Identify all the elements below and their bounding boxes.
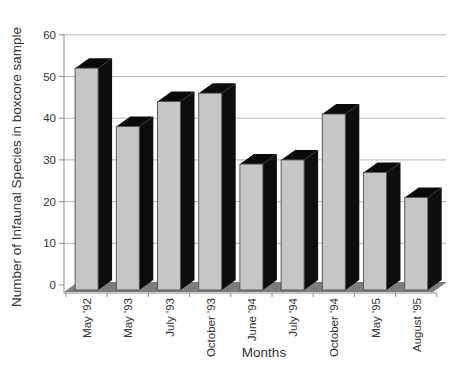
x-tick-label-august-95: August '95 xyxy=(411,298,423,352)
bar-may-92 xyxy=(75,58,112,290)
x-tick-label-october-93: October '93 xyxy=(205,298,217,357)
bar-side-june-94 xyxy=(263,154,277,290)
bar-face-june-94 xyxy=(240,164,263,290)
x-tick-label-may-92: May '92 xyxy=(81,298,93,338)
bar-side-may-93 xyxy=(139,117,153,290)
bar-july-93 xyxy=(158,92,195,290)
bar-face-may-95 xyxy=(364,172,387,290)
y-tick-label-30: 30 xyxy=(43,154,56,166)
bar-face-october-94 xyxy=(322,114,345,290)
x-tick-label-july-94: July '94 xyxy=(287,297,299,336)
y-tick-label-10: 10 xyxy=(43,237,56,249)
bar-side-october-93 xyxy=(222,83,236,290)
bar-face-october-93 xyxy=(199,93,222,290)
bar-side-october-94 xyxy=(345,104,359,290)
bar-october-93 xyxy=(199,83,236,290)
y-tick-label-20: 20 xyxy=(43,196,56,208)
bar-october-94 xyxy=(322,104,359,290)
chart-canvas: 0102030405060May '92May '93July '93Octob… xyxy=(0,0,469,378)
bar-face-may-93 xyxy=(116,127,139,290)
x-tick-label-may-93: May '93 xyxy=(122,298,134,338)
bar-face-july-93 xyxy=(158,102,181,290)
y-tick-label-40: 40 xyxy=(43,112,56,124)
x-tick-label-may-95: May '95 xyxy=(370,298,382,338)
x-tick-label-june-94: June '94 xyxy=(246,297,258,341)
bar-side-august-95 xyxy=(428,187,442,290)
bar-side-may-92 xyxy=(98,58,112,290)
bar-august-95 xyxy=(405,187,442,290)
bar-face-july-94 xyxy=(281,160,304,290)
bar-chart-figure: 0102030405060May '92May '93July '93Octob… xyxy=(0,0,469,378)
bar-may-93 xyxy=(116,117,153,290)
bar-side-may-95 xyxy=(387,162,401,290)
bar-side-july-94 xyxy=(304,150,318,290)
bar-face-may-92 xyxy=(75,68,98,290)
x-tick-label-october-94: October '94 xyxy=(328,297,340,357)
y-axis-title: Number of Infaunal Species in boxcore sa… xyxy=(9,27,24,307)
y-tick-label-0: 0 xyxy=(50,279,56,291)
bar-july-94 xyxy=(281,150,318,290)
bar-side-july-93 xyxy=(181,92,195,290)
x-axis-title: Months xyxy=(242,345,287,360)
bar-june-94 xyxy=(240,154,277,290)
bar-face-august-95 xyxy=(405,197,428,290)
y-tick-label-60: 60 xyxy=(43,29,56,41)
bar-may-95 xyxy=(364,162,401,290)
y-tick-label-50: 50 xyxy=(43,71,56,83)
x-tick-label-july-93: July '93 xyxy=(164,298,176,337)
